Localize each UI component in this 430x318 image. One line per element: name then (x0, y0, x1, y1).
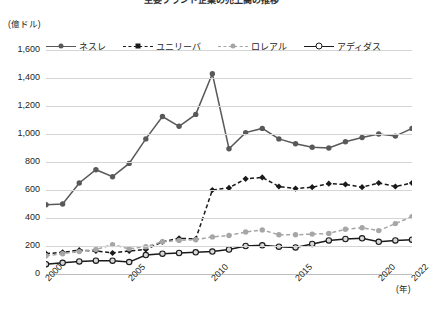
x-axis-unit-label: (年) (396, 282, 411, 294)
gridline (46, 274, 412, 275)
y-axis-tick-label: 0 (0, 268, 40, 278)
y-axis-unit-label: (億ドル) (8, 17, 41, 29)
legend-swatch-icon (304, 41, 334, 52)
gridline (46, 106, 412, 107)
legend-label: アディダス (337, 40, 381, 53)
gridline (46, 162, 412, 163)
legend-swatch-icon (123, 41, 153, 52)
legend-item-1[interactable]: ネスレ (46, 40, 106, 53)
legend-label: ネスレ (79, 40, 106, 53)
y-axis-tick-label: 1,400 (0, 72, 40, 82)
plot-area (46, 50, 412, 274)
gridline (46, 134, 412, 135)
gridlines (46, 50, 412, 274)
chart-legend: ネスレユニリーバロレアルアディダス (46, 38, 418, 54)
y-axis-tick-label: 800 (0, 156, 40, 166)
y-axis-tick-label: 1,000 (0, 128, 40, 138)
chart-title: 主要ブランド企業の売上高の推移 (0, 0, 423, 6)
y-axis-tick-label: 600 (0, 184, 40, 194)
gridline (46, 78, 412, 79)
y-axis-tick-label: 1,600 (0, 44, 40, 54)
legend-swatch-icon (218, 41, 248, 52)
legend-item-2[interactable]: ユニリーバ (123, 40, 201, 53)
gridline (46, 246, 412, 247)
gridline (46, 190, 412, 191)
legend-swatch-icon (46, 41, 76, 52)
legend-item-4[interactable]: アディダス (304, 40, 381, 53)
y-axis-tick-label: 400 (0, 212, 40, 222)
x-axis-ticks: 200020052010201520202022 (46, 276, 412, 316)
gridline (46, 218, 412, 219)
legend-label: ユニリーバ (156, 40, 201, 53)
legend-label: ロレアル (251, 40, 287, 53)
legend-item-3[interactable]: ロレアル (218, 40, 287, 53)
y-axis-tick-label: 1,200 (0, 100, 40, 110)
y-axis-tick-label: 200 (0, 240, 40, 250)
x-axis-tick-label: 2022 (409, 262, 430, 283)
